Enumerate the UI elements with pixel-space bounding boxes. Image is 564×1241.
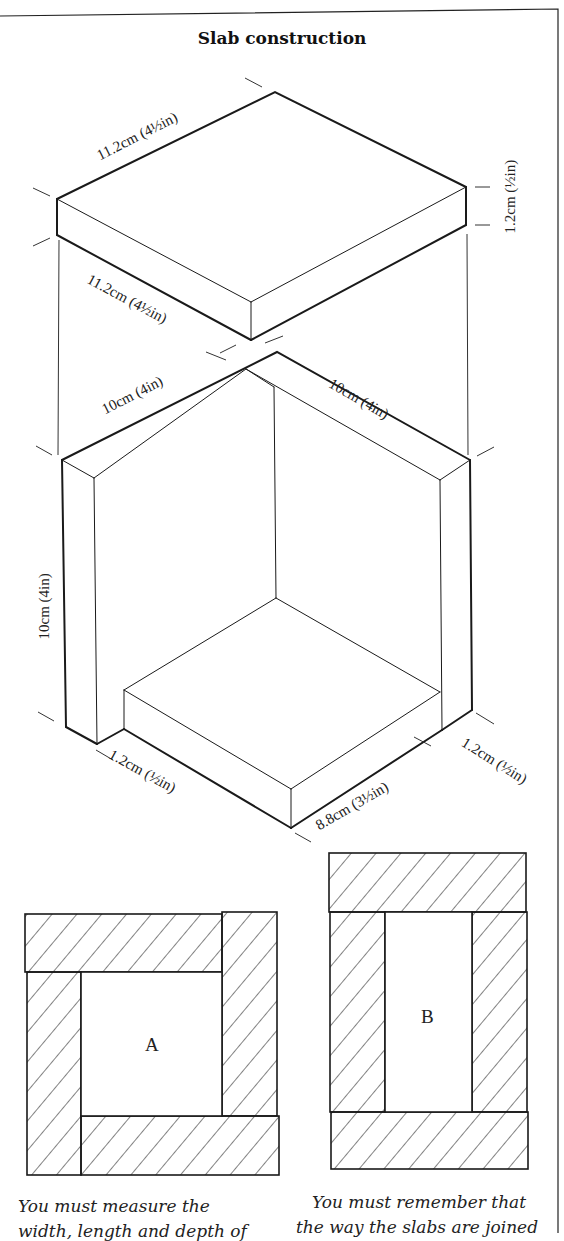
dim-top-slab-thickness: 1.2cm (½in) [502, 160, 519, 234]
caption-left: You must measure the [18, 1196, 210, 1216]
caption-right: You must remember that [312, 1192, 526, 1212]
box-dimension-ticks [36, 446, 494, 842]
dim-box-height: 10cm (4in) [36, 573, 53, 639]
plan-b-label: B [421, 1006, 434, 1028]
plan-a-label: A [145, 1034, 159, 1056]
caption-left-cut: width, length and depth of [18, 1221, 247, 1241]
figure-title: Slab construction [0, 28, 564, 48]
top-slab-dimension-ticks [33, 78, 490, 455]
caption-right-cut: the way the slabs are joined [296, 1217, 538, 1237]
